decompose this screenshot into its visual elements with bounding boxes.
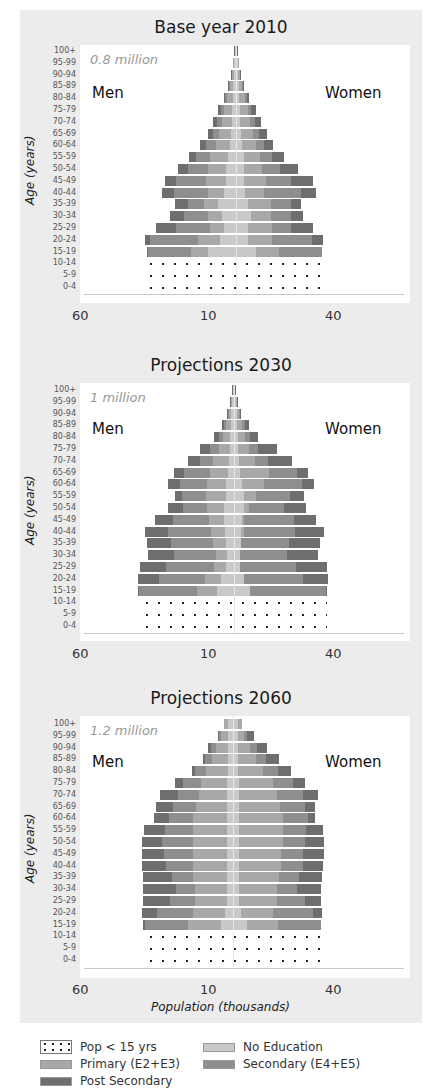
y-axis-title: Age (years) — [23, 476, 37, 545]
x-tick: 10 — [200, 308, 217, 323]
bar-no-education-men — [222, 211, 236, 221]
age-tick: 0-4 — [20, 281, 76, 293]
bar-secondary-women — [262, 164, 280, 174]
bar-no-education-men — [221, 920, 233, 930]
bar-secondary-men — [168, 527, 211, 537]
bar-post-secondary-women — [272, 152, 284, 162]
bar-no-education-men — [228, 152, 236, 162]
bar-no-education-men — [221, 574, 234, 584]
bar-primary-women — [240, 105, 248, 115]
bar-primary-men — [210, 152, 228, 162]
bar-post-secondary-men — [192, 766, 195, 776]
bar-secondary-men — [159, 574, 205, 584]
age-tick: 85-89 — [20, 80, 76, 92]
age-tick: 15-19 — [20, 246, 76, 258]
bar-secondary-men — [200, 456, 213, 466]
legend-label: Secondary (E4+E5) — [243, 1057, 360, 1071]
bar-secondary-men — [162, 837, 193, 847]
bar-secondary-women — [273, 908, 313, 918]
bar-no-education-women — [234, 538, 241, 548]
bar-post-secondary-men — [140, 562, 166, 572]
age-tick: 95-99 — [20, 730, 76, 742]
age-tick: 85-89 — [20, 753, 76, 765]
age-tick: 80-84 — [20, 92, 76, 104]
bar-no-education-women — [236, 235, 248, 245]
bar-no-education-women — [236, 247, 256, 257]
bar-post-secondary-women — [284, 503, 306, 513]
bar-post-secondary-men — [142, 849, 164, 859]
bar-no-education-women — [234, 491, 244, 501]
age-tick: 10-14 — [20, 257, 76, 269]
bar-primary-men — [193, 813, 227, 823]
bar-no-education-men — [220, 235, 236, 245]
bar-secondary-women — [277, 884, 297, 894]
x-axis-line — [84, 968, 404, 969]
bar-post-secondary-men — [160, 790, 178, 800]
bar-post-secondary-men — [224, 93, 225, 103]
bar-post-secondary-men — [208, 743, 211, 753]
bar-post-secondary-women — [294, 515, 316, 525]
bar-post-secondary-women — [291, 211, 303, 221]
bar-post-secondary-women — [295, 527, 324, 537]
legend-label: Pop < 15 yrs — [80, 1040, 157, 1054]
bar-no-education-men — [217, 586, 234, 596]
bar-post-secondary-women — [303, 861, 323, 871]
bar-post-secondary-men — [175, 778, 183, 788]
bar-primary-women — [238, 432, 245, 442]
legend-label: Post Secondary — [80, 1074, 172, 1088]
bar-primary-men — [193, 872, 227, 882]
bar-post-secondary-men — [218, 731, 219, 741]
bar-primary-women — [248, 235, 272, 245]
bar-post-secondary-women — [250, 432, 258, 442]
bar-primary-men — [214, 562, 226, 572]
bar-secondary-women — [277, 896, 305, 906]
pyramid-panel-2060: Projections 2060 1.2 million Men Women 1… — [20, 668, 422, 1023]
bar-post-secondary-men — [142, 837, 162, 847]
bar-secondary-women — [264, 188, 301, 198]
age-tick: 75-79 — [20, 104, 76, 116]
bar-post-secondary-women — [291, 199, 301, 209]
age-tick: 5-9 — [20, 608, 76, 620]
bar-primary-men — [208, 188, 224, 198]
bar-primary-men — [232, 70, 234, 80]
bar-secondary-women — [241, 538, 289, 548]
bar-post-secondary-women — [243, 81, 244, 91]
bar-no-education-women — [236, 199, 248, 209]
bar-post-secondary-women — [303, 790, 318, 800]
age-tick: 5-9 — [20, 269, 76, 281]
bar-post-secondary-women — [299, 872, 322, 882]
total-population-label: 1 million — [90, 390, 146, 405]
bar-no-education-men — [226, 562, 234, 572]
men-label: Men — [92, 753, 124, 771]
age-tick: 75-79 — [20, 777, 76, 789]
bar-no-education-women — [234, 586, 250, 596]
bar-secondary-women — [256, 754, 266, 764]
bar-post-secondary-women — [245, 420, 249, 430]
bar-primary-men — [230, 81, 233, 91]
bar-secondary-women — [277, 790, 303, 800]
x-tick: 40 — [325, 646, 342, 661]
bar-secondary-men — [188, 164, 208, 174]
bar-no-education-men — [224, 223, 236, 233]
age-tick: 90-94 — [20, 69, 76, 81]
age-tick: 90-94 — [20, 742, 76, 754]
bar-primary-men — [193, 849, 227, 859]
bar-no-education-men — [226, 479, 234, 489]
x-axis-line — [84, 294, 404, 295]
bar-post-secondary-men — [234, 46, 235, 56]
bar-primary-women — [239, 849, 281, 859]
bar-secondary-women — [280, 802, 305, 812]
center-axis-line — [236, 40, 237, 294]
bar-secondary-women — [283, 813, 308, 823]
bar-post-secondary-women — [291, 223, 313, 233]
bar-no-education-women — [234, 527, 241, 537]
bar-post-secondary-men — [168, 503, 183, 513]
bar-post-secondary-men — [156, 802, 173, 812]
bar-secondary-men — [219, 432, 223, 442]
bar-post-secondary-women — [305, 896, 321, 906]
age-tick: 70-74 — [20, 455, 76, 467]
primary-swatch-icon — [40, 1060, 72, 1069]
bar-secondary-men — [229, 81, 230, 91]
bar-post-secondary-men — [142, 861, 166, 871]
men-label: Men — [92, 420, 124, 438]
